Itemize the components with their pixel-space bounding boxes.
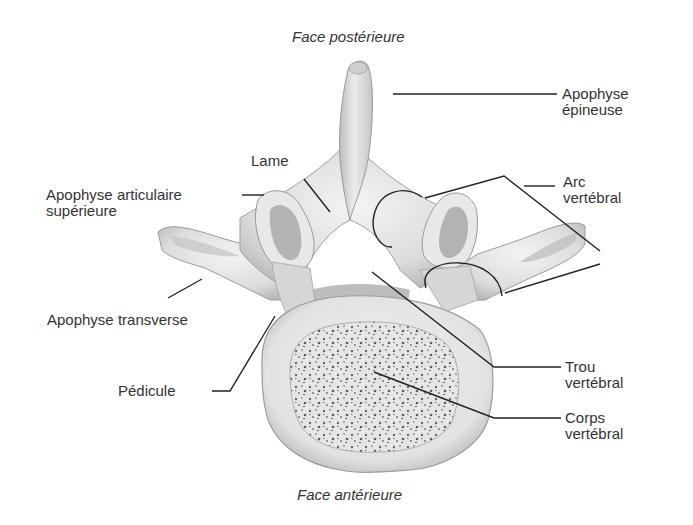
label-arc-vertebral: Arc vertébral bbox=[563, 174, 621, 206]
label-trou-vertebral: Trou vertébral bbox=[565, 359, 623, 391]
label-line: Arc bbox=[563, 174, 621, 190]
label-line: Trou bbox=[565, 359, 623, 375]
label-apophyse-epineuse: Apophyse épineuse bbox=[562, 86, 629, 118]
label-line: vertébral bbox=[563, 190, 621, 206]
label-lame: Lame bbox=[251, 153, 289, 169]
label-line: Corps bbox=[565, 410, 623, 426]
label-line: Pédicule bbox=[118, 383, 176, 399]
label-line: Apophyse articulaire bbox=[46, 187, 182, 203]
label-line: Apophyse bbox=[562, 86, 629, 102]
label-line: Lame bbox=[251, 153, 289, 169]
caption-face-anterieure: Face antérieure bbox=[297, 486, 402, 503]
label-pedicule: Pédicule bbox=[118, 383, 176, 399]
spongy-bone bbox=[290, 322, 459, 453]
vertebra-illustration bbox=[0, 0, 693, 525]
bone-group bbox=[158, 61, 585, 472]
label-corps-vertebral: Corps vertébral bbox=[565, 410, 623, 442]
label-line: épineuse bbox=[562, 102, 629, 118]
label-line: vertébral bbox=[565, 426, 623, 442]
label-line: vertébral bbox=[565, 375, 623, 391]
label-apophyse-transverse: Apophyse transverse bbox=[47, 312, 188, 328]
label-apophyse-articulaire-superieure: Apophyse articulaire supérieure bbox=[46, 187, 182, 219]
leader-apophyse-transverse bbox=[168, 279, 202, 298]
label-line: Apophyse transverse bbox=[47, 312, 188, 328]
label-line: supérieure bbox=[46, 203, 182, 219]
